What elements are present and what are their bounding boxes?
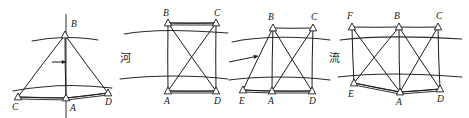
extended-quadrilateral-scheme-label-A: A <box>267 96 274 106</box>
extended-quadrilateral-scheme-baseline-AD <box>272 91 312 93</box>
extended-quadrilateral-scheme-label-E: E <box>238 96 245 106</box>
extended-quadrilateral-scheme-station-B <box>269 24 276 31</box>
quadrilateral-scheme-label-D: D <box>213 96 221 106</box>
quadrilateral-scheme-lower-bank <box>120 76 228 79</box>
double-chain-scheme-upper-bank <box>340 37 462 40</box>
single-triangle-scheme-label-D: D <box>104 97 112 107</box>
quadrilateral-scheme-baseline-AD <box>168 91 216 93</box>
quadrilateral-scheme-baseline-BC <box>168 23 216 25</box>
quadrilateral-scheme-station-B <box>164 19 171 26</box>
single-triangle-scheme-baseline-AD <box>66 93 108 100</box>
double-chain-scheme-label-F: F <box>346 11 353 21</box>
single-triangle-scheme-label-C: C <box>12 102 19 112</box>
quadrilateral-scheme-station-C <box>212 19 219 26</box>
extended-quadrilateral-scheme-edge-CD <box>312 28 313 91</box>
double-chain-scheme-station-F <box>348 23 355 30</box>
extended-quadrilateral-scheme-flow-arrow-head <box>253 55 258 59</box>
quadrilateral-scheme-label-B: B <box>163 8 169 18</box>
single-triangle-scheme-label-B: B <box>71 19 77 29</box>
extended-quadrilateral-scheme-label-B: B <box>268 12 274 22</box>
double-chain-scheme-label-E: E <box>347 89 354 99</box>
double-chain-scheme-label-D: D <box>436 94 444 104</box>
double-chain-scheme: FBCEAD <box>338 11 462 107</box>
double-chain-scheme-label-C: C <box>436 11 443 21</box>
double-chain-scheme-edge-CD <box>438 27 440 89</box>
extended-quadrilateral-scheme-station-A <box>268 87 275 94</box>
extended-quadrilateral-scheme-flow-arrow <box>229 56 258 62</box>
single-triangle-scheme-label-A: A <box>69 103 76 113</box>
diagram-canvas: BCADBCADBCEADFBCEAD河流 <box>0 0 469 118</box>
extended-quadrilateral-scheme-baseline-EA <box>243 90 272 93</box>
extended-quadrilateral-scheme: BCEAD <box>229 12 330 106</box>
double-chain-scheme-label-B: B <box>394 11 400 21</box>
extended-quadrilateral-scheme-label-D: D <box>308 96 316 106</box>
double-chain-scheme-station-B <box>395 23 402 30</box>
single-triangle-scheme: BCAD <box>12 14 112 118</box>
extended-quadrilateral-scheme-station-C <box>309 24 316 31</box>
extended-quadrilateral-scheme-edge-BE <box>243 28 273 90</box>
quadrilateral-scheme-label-C: C <box>214 8 221 18</box>
single-triangle-scheme-edge-BD <box>65 35 108 93</box>
diagram-geometry: BCADBCADBCEADFBCEAD河流 <box>12 8 462 118</box>
double-chain-scheme-label-A: A <box>395 97 402 107</box>
extended-quadrilateral-scheme-station-E <box>239 86 246 93</box>
single-triangle-scheme-edge-BC <box>18 35 65 97</box>
triangulation-diagram: BCADBCADBCEADFBCEAD河流 <box>0 0 469 118</box>
quadrilateral-scheme: BCAD <box>120 8 228 106</box>
single-triangle-scheme-lower-bank <box>13 86 112 91</box>
quadrilateral-scheme-label-A: A <box>163 96 170 106</box>
single-triangle-scheme-baseline-CA <box>18 97 66 100</box>
extended-quadrilateral-scheme-station-D <box>308 87 315 94</box>
double-chain-scheme-edge-FE <box>352 27 354 83</box>
double-chain-scheme-station-C <box>434 23 441 30</box>
flow-character: 流 <box>329 51 340 65</box>
river-character: 河 <box>120 52 131 65</box>
double-chain-scheme-baseline-EA <box>354 83 400 94</box>
single-triangle-scheme-station-B <box>61 31 68 38</box>
quadrilateral-scheme-upper-bank <box>124 31 228 35</box>
extended-quadrilateral-scheme-label-C: C <box>311 12 318 22</box>
double-chain-scheme-baseline-AD <box>400 89 440 94</box>
